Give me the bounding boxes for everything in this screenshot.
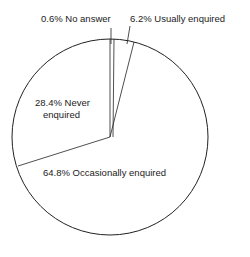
label-never-enquired-line1: 28.4% Never	[35, 97, 90, 108]
label-never-enquired-line2: enquired	[43, 109, 80, 120]
label-no-answer: 0.6% No answer	[41, 13, 111, 24]
label-occasionally-enquired: 64.8% Occasionally enquired	[43, 167, 166, 178]
pie-chart	[0, 0, 250, 257]
label-usually-enquired: 6.2% Usually enquired	[130, 13, 225, 24]
